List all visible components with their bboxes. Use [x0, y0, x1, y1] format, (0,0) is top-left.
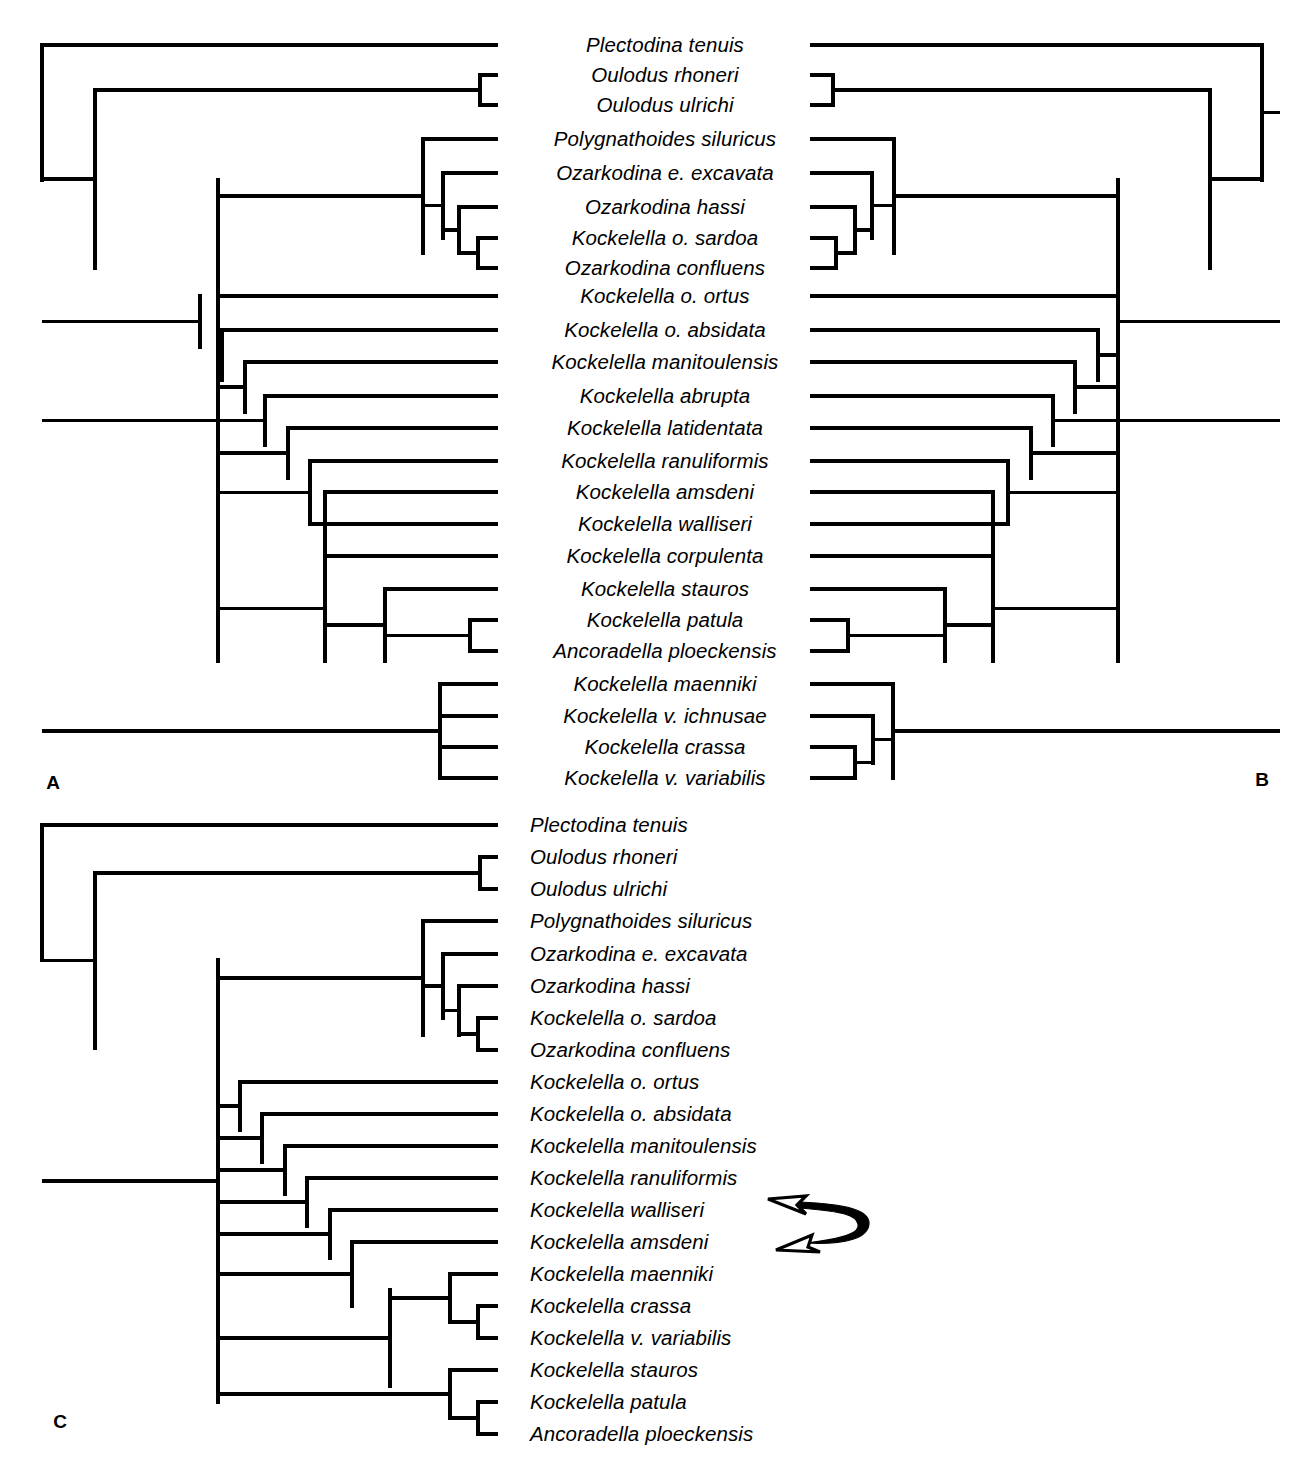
taxon-label: Kockelella crassa	[530, 1296, 691, 1317]
taxon-label: Ozarkodina hassi	[585, 197, 745, 218]
taxon-label: Polygnathoides siluricus	[530, 911, 752, 932]
taxon-label: Kockelella v. variabilis	[564, 768, 765, 789]
taxon-label: Ancoradella ploeckensis	[530, 1424, 753, 1445]
taxon-label: Kockelella o. ortus	[530, 1072, 699, 1093]
taxon-label: Kockelella stauros	[530, 1360, 698, 1381]
annotation-layer	[768, 1196, 869, 1252]
taxon-label: Ozarkodina confluens	[530, 1040, 730, 1061]
taxon-label: Plectodina tenuis	[530, 815, 688, 836]
taxon-label: Kockelella walliseri	[530, 1200, 704, 1221]
taxon-label: Kockelella maenniki	[530, 1264, 713, 1285]
taxon-label: Oulodus rhoneri	[530, 847, 677, 868]
taxon-label: Kockelella walliseri	[578, 514, 752, 535]
taxon-label: Kockelella o. sardoa	[530, 1008, 717, 1029]
taxon-label: Kockelella latidentata	[567, 418, 763, 439]
taxon-label: Kockelella o. ortus	[580, 286, 749, 307]
taxon-label: Kockelella ranuliformis	[561, 451, 768, 472]
taxon-label: Kockelella maenniki	[573, 674, 756, 695]
panel-a-branches	[42, 43, 498, 779]
taxon-label: Ancoradella ploeckensis	[553, 641, 776, 662]
taxon-label: Kockelella v. ichnusae	[563, 706, 767, 727]
taxon-label: Kockelella v. variabilis	[530, 1328, 731, 1349]
taxon-label: Plectodina tenuis	[586, 35, 744, 56]
panel-label-c: C	[53, 1411, 67, 1433]
taxon-label: Polygnathoides siluricus	[554, 129, 776, 150]
taxon-label: Kockelella abrupta	[580, 386, 750, 407]
taxon-label: Kockelella o. absidata	[564, 320, 766, 341]
taxon-label: Kockelella o. sardoa	[572, 228, 759, 249]
panel-b-branches	[810, 43, 1280, 779]
panel-label-b: B	[1255, 769, 1269, 791]
taxon-label: Ozarkodina confluens	[565, 258, 765, 279]
taxon-label: Kockelella stauros	[581, 579, 749, 600]
taxon-label: Kockelella patula	[530, 1392, 687, 1413]
taxon-label: Kockelella crassa	[584, 737, 745, 758]
taxon-label: Kockelella patula	[587, 610, 744, 631]
taxon-label: Ozarkodina e. excavata	[556, 163, 774, 184]
taxon-label: Oulodus ulrichi	[530, 879, 667, 900]
taxon-label: Ozarkodina hassi	[530, 976, 690, 997]
panel-label-a: A	[46, 772, 60, 794]
taxon-label: Kockelella o. absidata	[530, 1104, 732, 1125]
taxon-label: Kockelella corpulenta	[567, 546, 764, 567]
taxon-label: Kockelella manitoulensis	[530, 1136, 757, 1157]
taxon-label: Kockelella manitoulensis	[552, 352, 779, 373]
taxon-label: Oulodus ulrichi	[596, 95, 733, 116]
taxon-label: Oulodus rhoneri	[591, 65, 738, 86]
phylogenetic-figure: Plectodina tenuisOulodus rhoneriOulodus …	[0, 0, 1303, 1470]
taxon-label: Ozarkodina e. excavata	[530, 944, 748, 965]
taxon-label: Kockelella amsdeni	[530, 1232, 708, 1253]
taxon-label: Kockelella ranuliformis	[530, 1168, 737, 1189]
taxon-label: Kockelella amsdeni	[576, 482, 754, 503]
panel-c-branches	[42, 823, 498, 1435]
